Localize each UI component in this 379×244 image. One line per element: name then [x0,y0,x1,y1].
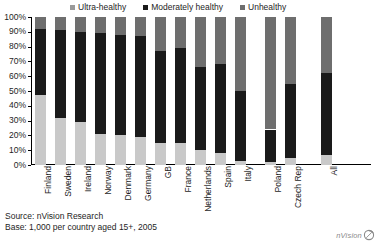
bar-segment[interactable] [55,17,66,30]
bar-segment[interactable] [195,67,206,150]
x-tick-label: Ireland [84,166,93,192]
bar-segment[interactable] [195,17,206,67]
bar-segment[interactable] [235,91,246,161]
legend-swatch-icon [240,5,245,10]
bar-segment[interactable] [95,134,106,165]
legend-item-2[interactable]: Unhealthy [240,3,286,12]
bar-segment[interactable] [321,17,332,73]
bar-segment[interactable] [135,137,146,165]
y-tick-label: 20% [9,131,26,140]
legend-label: Moderately healthy [151,3,223,12]
x-tick-label: Spain [224,166,233,188]
bar-segment[interactable] [155,143,166,165]
bar-segment[interactable] [155,51,166,143]
y-tick-label: 0% [14,161,26,170]
chart-container: Ultra-healthyModerately healthyUnhealthy… [0,0,379,244]
bar-segment[interactable] [265,162,276,165]
bar-column[interactable] [215,17,226,165]
y-tick-label: 50% [9,87,26,96]
bar-segment[interactable] [35,95,46,165]
y-tick-label: 70% [9,57,26,66]
bar-segment[interactable] [55,118,66,165]
legend-swatch-icon [143,5,148,10]
x-tick-label: Finland [44,166,53,194]
x-tick-label: Italy [244,166,253,182]
chart-footer: Source: nVision Research Base: 1,000 per… [5,211,285,233]
bar-segment[interactable] [215,64,226,153]
bar-segment[interactable] [115,35,126,136]
bar-segment[interactable] [155,17,166,51]
legend-label: Unhealthy [248,3,286,12]
bar-column[interactable] [35,17,46,165]
bar-segment[interactable] [175,143,186,165]
x-tick-label: All [330,166,339,175]
bar-segment[interactable] [235,17,246,91]
bar-column[interactable] [95,17,106,165]
bar-segment[interactable] [285,158,296,165]
bar-segment[interactable] [175,48,186,143]
bar-segment[interactable] [321,155,332,165]
bar-segment[interactable] [235,161,246,165]
legend-item-0[interactable]: Ultra-healthy [70,3,126,12]
plot-area [31,17,371,165]
nvision-logo: nVision [336,229,375,241]
footer-source: Source: nVision Research [5,211,285,222]
bar-segment[interactable] [115,135,126,165]
x-tick-label: Czech Rep [294,166,303,208]
logo-text: nVision [336,231,362,240]
x-tick-label: Netherlands [204,166,213,212]
bar-segment[interactable] [195,150,206,165]
bar-column[interactable] [321,17,332,165]
x-tick-label: Norway [104,166,113,195]
y-tick-label: 90% [9,27,26,36]
bar-segment[interactable] [175,17,186,48]
y-tick-label: 80% [9,42,26,51]
bar-column[interactable] [55,17,66,165]
bar-segment[interactable] [115,17,126,35]
x-tick-label: GB [164,166,173,178]
y-tick-label: 10% [9,146,26,155]
x-tick-label: Poland [274,166,283,192]
legend-swatch-icon [70,5,75,10]
bar-segment[interactable] [265,130,276,163]
bar-segment[interactable] [215,153,226,165]
bar-column[interactable] [75,17,86,165]
bar-segment[interactable] [95,33,106,134]
bar-column[interactable] [155,17,166,165]
bar-column[interactable] [195,17,206,165]
bar-segment[interactable] [75,122,86,165]
bar-column[interactable] [115,17,126,165]
x-axis-labels: FinlandSwedenIrelandNorwayDenmarkGermany… [31,166,371,208]
bar-segment[interactable] [135,36,146,137]
bar-column[interactable] [175,17,186,165]
x-tick-label: Germany [144,166,153,201]
footer-base: Base: 1,000 per country aged 15+, 2005 [5,222,285,233]
y-tick-label: 30% [9,116,26,125]
bar-segment[interactable] [75,32,86,122]
bar-column[interactable] [135,17,146,165]
legend-label: Ultra-healthy [78,3,126,12]
x-tick-label: Denmark [124,166,133,200]
bar-segment[interactable] [35,29,46,96]
y-tick-label: 60% [9,72,26,81]
bar-segment[interactable] [35,17,46,29]
y-axis-labels: 0%10%20%30%40%50%60%70%80%90%100% [0,11,30,171]
bar-segment[interactable] [135,17,146,36]
bar-column[interactable] [265,17,276,165]
x-tick-label: France [184,166,193,192]
bar-column[interactable] [285,17,296,165]
bar-series-group [31,17,371,165]
chart-legend: Ultra-healthyModerately healthyUnhealthy [70,1,370,13]
bar-segment[interactable] [285,84,296,158]
bar-segment[interactable] [55,30,66,117]
bar-column[interactable] [235,17,246,165]
bar-segment[interactable] [321,73,332,154]
bar-segment[interactable] [265,17,276,129]
y-tick-label: 100% [4,13,26,22]
bar-segment[interactable] [285,17,296,84]
legend-item-1[interactable]: Moderately healthy [143,3,223,12]
logo-circle-icon [363,229,375,241]
bar-segment[interactable] [95,17,106,33]
bar-segment[interactable] [75,17,86,32]
bar-segment[interactable] [215,17,226,64]
